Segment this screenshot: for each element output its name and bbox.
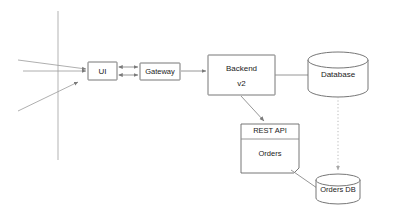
- node-database-top: [308, 52, 368, 68]
- architecture-diagram: UI Gateway Backend v2 Database REST API …: [0, 0, 393, 214]
- edge-rest-api-orders-db: [291, 170, 317, 188]
- inbound-arrow-top: [18, 60, 86, 69]
- node-database-label: Database: [321, 70, 356, 79]
- node-orders-db-label: Orders DB: [320, 185, 355, 194]
- node-ui-label: UI: [99, 67, 107, 76]
- diagram-canvas: UI Gateway Backend v2 Database REST API …: [0, 0, 393, 214]
- node-backend-label-line1: Backend: [226, 64, 257, 73]
- node-gateway-label: Gateway: [145, 67, 175, 76]
- node-rest-api-body-label: Orders: [259, 149, 282, 158]
- node-backend[interactable]: [208, 55, 275, 95]
- node-rest-api-header-label: REST API: [253, 126, 287, 135]
- inbound-arrow-bottom: [18, 82, 78, 111]
- node-backend-label-line2: v2: [237, 79, 246, 88]
- edge-backend-rest-api: [241, 96, 264, 121]
